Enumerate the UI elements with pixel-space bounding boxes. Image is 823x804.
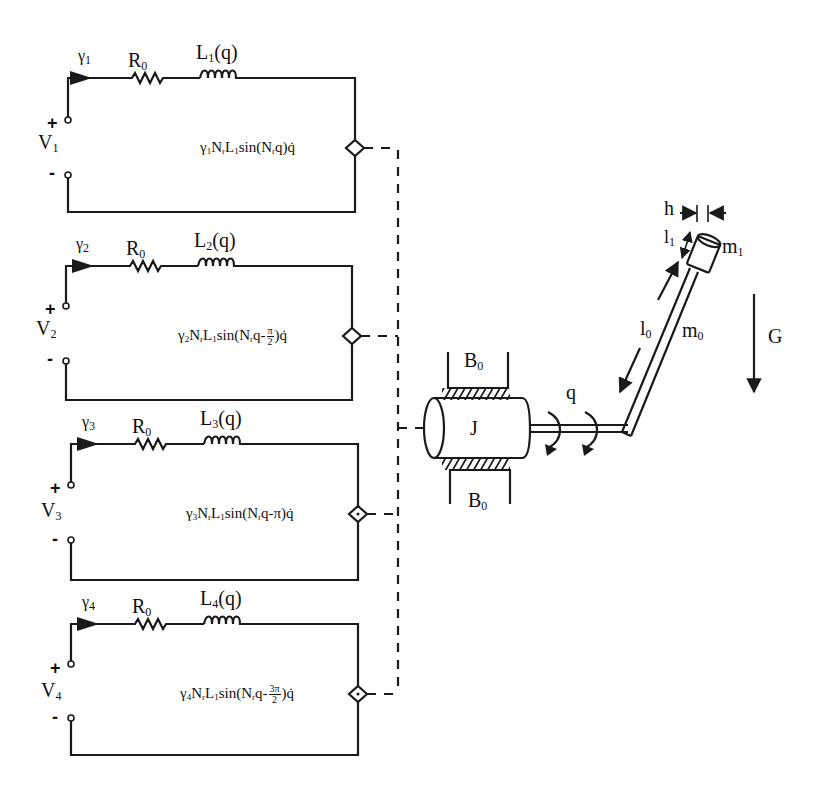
inductor-icon	[198, 259, 238, 267]
resistor-label-3: R0	[132, 416, 151, 438]
inductor-label-4: L4(q)	[200, 588, 242, 610]
plus-sign-1: +	[47, 114, 58, 132]
terminal-minus	[68, 715, 74, 721]
l1-arrow-down-icon	[682, 246, 686, 258]
inductor-icon	[200, 71, 238, 79]
dependent-source-icon	[343, 328, 361, 344]
wire-top-right	[238, 78, 355, 140]
bearing-top-label: B0	[464, 350, 483, 372]
rod-mass-label: m0	[682, 320, 704, 342]
rotation-arrow-icon	[585, 412, 597, 448]
current-label-4: γ4	[82, 594, 95, 612]
tip-mass-body	[687, 236, 720, 273]
terminal-plus	[63, 303, 69, 309]
shaft	[530, 425, 628, 432]
emf-expression-2: γ2NrL1sin(Nrq-π2)q̇	[178, 326, 287, 347]
minus-sign-4: -	[52, 708, 58, 726]
rotor-assembly	[422, 352, 628, 504]
tip-mass-label: m1	[722, 236, 744, 258]
rod-length-label: l0	[640, 318, 652, 340]
wire-top-right	[244, 624, 358, 686]
inductor-label-2: L2(q)	[194, 230, 236, 252]
bearing-top-bracket-right	[488, 352, 508, 388]
resistor-icon	[122, 73, 200, 83]
plus-sign-4: +	[50, 659, 61, 677]
current-arrow-icon	[72, 259, 94, 273]
resistor-icon	[125, 619, 204, 629]
terminal-plus	[68, 661, 74, 667]
fraction: π2	[267, 326, 274, 347]
rod	[622, 268, 698, 436]
minus-sign-3: -	[52, 530, 58, 548]
terminal-minus	[68, 537, 74, 543]
terminal-minus	[65, 172, 71, 178]
source-label-3: V3	[41, 500, 61, 522]
source-label-2: V2	[36, 318, 56, 340]
inductor-label-3: L3(q)	[200, 408, 242, 430]
rotor-label: J	[470, 418, 478, 438]
wire-top-right	[238, 266, 352, 328]
current-arrow-icon	[77, 437, 99, 451]
rotation-arrow-icon	[548, 412, 560, 448]
minus-sign-1: -	[49, 164, 55, 182]
resistor-label-2: R0	[126, 238, 145, 260]
bearing-bottom-label: B0	[468, 490, 487, 512]
bearing-bottom-hatch	[442, 458, 510, 470]
wire-bottom	[68, 156, 355, 212]
wire-bottom	[71, 522, 358, 580]
inductor-icon	[204, 437, 244, 445]
terminal-plus	[68, 482, 74, 488]
current-arrow-icon	[77, 617, 99, 631]
l1-arrow-up-icon	[686, 232, 690, 246]
resistor-icon	[120, 261, 198, 271]
tip-width-label: h	[664, 198, 674, 218]
source-dot	[357, 513, 360, 516]
dependent-source-icon	[346, 140, 364, 156]
angle-label: q	[566, 382, 576, 402]
emf-expression-3: γ3NrL1sin(Nrq-π)q̇	[186, 506, 294, 522]
source-dot	[357, 693, 360, 696]
plus-sign-2: +	[45, 300, 56, 318]
source-label-4: V4	[41, 680, 61, 702]
wire-left-top	[68, 78, 122, 118]
rotor-end-face	[424, 398, 444, 458]
plus-sign-3: +	[50, 479, 61, 497]
diagram-canvas	[0, 0, 823, 804]
l0-arrow-up-icon	[658, 262, 678, 300]
fraction: 3π2	[269, 684, 281, 705]
wire-top-right	[244, 444, 358, 506]
minus-sign-2: -	[47, 350, 53, 368]
emf-expression-1: γ1NrL1sin(Nrq)q̇	[200, 140, 295, 156]
current-arrow-icon	[70, 71, 92, 85]
current-label-3: γ3	[82, 414, 95, 432]
inductor-label-1: L1(q)	[196, 42, 238, 64]
resistor-icon	[125, 439, 204, 449]
current-label-1: γ1	[78, 48, 91, 66]
wire-bottom	[71, 702, 358, 755]
rotor-body	[434, 398, 530, 458]
resistor-label-1: R0	[128, 50, 147, 72]
tip-length-label: l1	[664, 228, 675, 248]
terminal-plus	[65, 117, 71, 123]
tip-mass	[687, 231, 722, 272]
resistor-label-4: R0	[132, 596, 151, 618]
gravity-label: G	[768, 326, 782, 346]
terminal-minus	[63, 358, 69, 364]
l0-arrow-down-icon	[620, 348, 640, 392]
wire-bottom	[66, 344, 352, 400]
current-label-2: γ2	[76, 236, 89, 254]
source-label-1: V1	[38, 132, 58, 154]
emf-expression-4: γ4NrL1sin(Nrq-3π2)q̇	[180, 684, 294, 705]
inductor-icon	[204, 617, 244, 625]
